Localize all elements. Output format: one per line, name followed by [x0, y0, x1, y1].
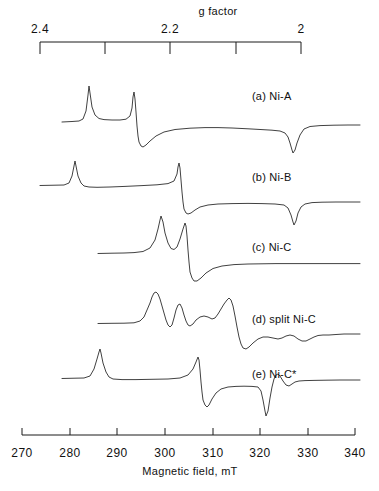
field-tick-label-320: 320 — [249, 446, 271, 460]
trace-label-b: (b) Ni-B — [252, 171, 292, 183]
field-tick-label-290: 290 — [106, 446, 128, 460]
field-tick-label-330: 330 — [297, 446, 319, 460]
g-factor-axis-title: g factor — [198, 5, 237, 17]
spectrum-trace-e — [62, 349, 360, 416]
g-factor-tick-label-2-4: 2.4 — [31, 22, 49, 36]
spectrum-trace-d — [98, 292, 360, 349]
spectrum-trace-a — [62, 86, 360, 153]
epr-spectra-figure: g factor 2.4 2.2 2 (a) Ni-A (b) Ni-B (c)… — [0, 0, 379, 491]
trace-label-e: (e) Ni-C* — [252, 368, 297, 380]
field-tick-label-280: 280 — [59, 446, 81, 460]
g-factor-axis — [40, 42, 301, 54]
trace-label-c: (c) Ni-C — [252, 241, 291, 253]
field-tick-label-300: 300 — [154, 446, 176, 460]
field-tick-label-270: 270 — [11, 446, 33, 460]
spectrum-trace-b — [40, 161, 360, 225]
trace-label-d: (d) split Ni-C — [252, 313, 316, 325]
magnetic-field-axis — [22, 428, 355, 435]
g-factor-tick-label-2: 2 — [297, 22, 304, 36]
spectrum-trace-c — [98, 216, 360, 281]
field-tick-label-310: 310 — [202, 446, 224, 460]
magnetic-field-axis-title: Magnetic field, mT — [142, 465, 237, 477]
g-factor-tick-label-2-2: 2.2 — [161, 22, 179, 36]
field-tick-label-340: 340 — [344, 446, 366, 460]
spectra-canvas — [0, 0, 379, 491]
trace-label-a: (a) Ni-A — [252, 90, 292, 102]
spectra-traces — [40, 86, 360, 416]
